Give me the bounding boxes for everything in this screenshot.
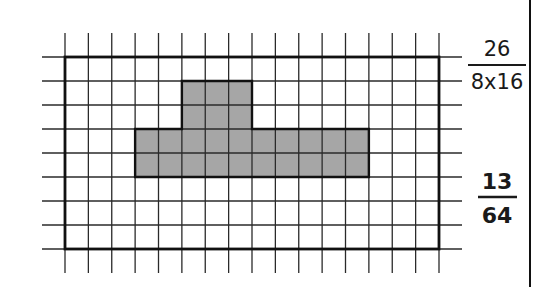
grid-diagram: 26 8x16 13 64 [0,0,543,287]
fraction-2-denominator: 64 [482,203,513,228]
fraction-1-numerator: 26 [484,37,511,61]
fraction-13-over-64: 13 64 [478,169,517,228]
fraction-1-denominator: 8x16 [471,70,524,94]
fraction-2-numerator: 13 [482,169,513,194]
grid-lines [42,33,462,273]
fraction-26-over-8x16: 26 8x16 [468,37,526,94]
